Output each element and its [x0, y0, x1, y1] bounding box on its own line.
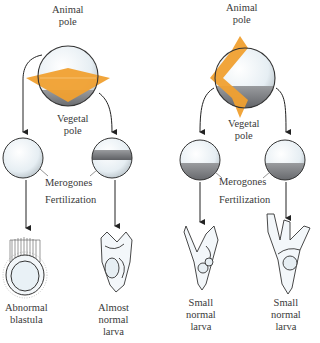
fertilization-label-left: Fertilization	[45, 194, 96, 206]
merogone-vegetal-half	[90, 138, 134, 178]
outcome-label-small-normal-larva-1: Small normal larva	[186, 297, 216, 333]
animal-pole-label-left: Animal pole	[52, 4, 84, 28]
merogone-animal-half	[3, 138, 43, 178]
arrow-to-right-half	[276, 88, 286, 132]
vegetal-pole-label-right: Vegetal pole	[228, 118, 260, 142]
almost-normal-larva-illustration	[101, 232, 132, 292]
small-normal-larva-illustration-2	[267, 214, 310, 294]
sea-urchin-merogone-diagram: Animal pole Vegetal pole Merogones Ferti…	[0, 0, 320, 343]
outcome-label-almost-normal-larva: Almost normal larva	[98, 302, 129, 338]
small-normal-larva-illustration-1	[184, 226, 218, 290]
arrow-to-left-half	[200, 88, 214, 132]
abnormal-blastula-illustration	[3, 237, 47, 298]
merogones-label-right: Merogones	[219, 176, 266, 188]
merogone-right-half	[263, 140, 307, 183]
outcome-label-small-normal-larva-2: Small normal larva	[271, 297, 301, 333]
arrow-to-vegetal-half	[99, 93, 112, 132]
diagram-graphics	[0, 0, 320, 343]
merogone-left-half	[178, 140, 222, 183]
merogones-label-left: Merogones	[45, 177, 92, 189]
vegetal-pole-label-left: Vegetal pole	[57, 113, 89, 137]
animal-pole-label-right: Animal pole	[226, 2, 258, 26]
outcome-label-abnormal-blastula: Abnormal blastula	[5, 302, 48, 326]
right-egg	[210, 36, 280, 118]
fertilization-label-right: Fertilization	[219, 194, 270, 206]
